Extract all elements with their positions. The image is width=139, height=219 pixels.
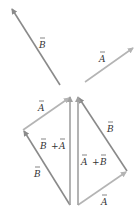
svg-text:A: A: [37, 103, 45, 113]
svg-text:B: B: [39, 141, 47, 151]
vector-a-left: [23, 98, 69, 130]
label-b: B: [38, 40, 46, 50]
svg-text:A: A: [58, 141, 66, 151]
vector-addition-diagram: B A A B B + A: [0, 0, 139, 219]
top-vectors: B A: [12, 9, 133, 85]
svg-text:B: B: [33, 169, 41, 179]
svg-text:+: +: [51, 141, 59, 151]
label-b-right: B: [106, 122, 114, 134]
label-a-left: A: [37, 101, 45, 113]
label-sum-left: B + A: [39, 139, 66, 151]
vector-a-top-label: A: [98, 52, 106, 64]
label-b-left: B: [33, 167, 41, 179]
vector-b-top-label: B: [38, 38, 46, 50]
right-triangle: B A A + B: [78, 97, 127, 207]
label-a: A: [98, 54, 106, 64]
left-triangle: A B B + A: [23, 97, 70, 205]
label-sum-right: A + B: [80, 155, 107, 167]
vector-a-top: [85, 48, 133, 82]
svg-text:+: +: [92, 157, 100, 167]
svg-text:B: B: [99, 157, 107, 167]
svg-text:B: B: [106, 124, 114, 134]
svg-text:A: A: [80, 157, 88, 167]
label-a-right: A: [100, 195, 108, 207]
svg-text:A: A: [100, 197, 108, 207]
vector-b-top: [12, 9, 60, 85]
